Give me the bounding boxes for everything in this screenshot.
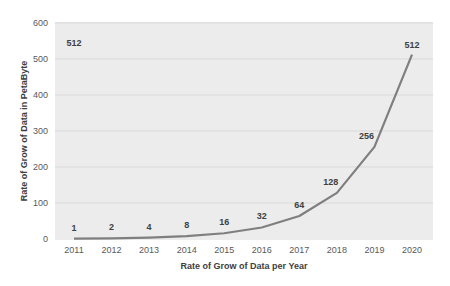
data-label: 2 (109, 222, 114, 232)
y-tick-label: 100 (33, 198, 48, 208)
data-label: 256 (359, 131, 374, 141)
data-label: 1 (71, 223, 76, 233)
data-label: 16 (219, 217, 229, 227)
y-tick-label: 0 (43, 234, 48, 244)
x-axis-ticks: 2011201220132014201520162017201820192020 (64, 245, 422, 255)
x-tick-label: 2016 (252, 245, 272, 255)
annotation-512: 512 (66, 38, 81, 48)
data-label: 32 (257, 211, 267, 221)
x-tick-label: 2013 (139, 245, 159, 255)
y-tick-label: 400 (33, 90, 48, 100)
data-label: 4 (147, 222, 152, 232)
x-tick-label: 2020 (402, 245, 422, 255)
data-label: 64 (294, 200, 304, 210)
y-tick-label: 600 (33, 18, 48, 28)
data-label: 512 (404, 40, 419, 50)
data-label: 128 (323, 177, 338, 187)
x-tick-label: 2015 (214, 245, 234, 255)
x-tick-label: 2017 (289, 245, 309, 255)
y-tick-label: 300 (33, 126, 48, 136)
y-axis-ticks: 0100200300400500600 (33, 18, 48, 244)
x-tick-label: 2012 (102, 245, 122, 255)
x-tick-label: 2011 (64, 245, 83, 255)
y-axis-title: Rate of Grow of Data in PetaByte (19, 61, 29, 202)
data-label: 8 (184, 220, 189, 230)
line-chart: 0100200300400500600 20112012201320142015… (0, 0, 450, 286)
y-tick-label: 500 (33, 54, 48, 64)
y-tick-label: 200 (33, 162, 48, 172)
x-axis-title: Rate of Grow of Data per Year (181, 261, 308, 271)
x-tick-label: 2018 (327, 245, 347, 255)
x-tick-label: 2014 (177, 245, 197, 255)
x-tick-label: 2019 (364, 245, 384, 255)
